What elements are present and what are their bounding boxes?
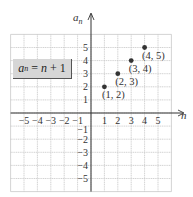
y-tick-label: 5 (83, 42, 88, 53)
x-tick-label: −5 (19, 115, 30, 126)
y-tick-label: 1 (83, 94, 88, 105)
y-tick-label: 2 (83, 81, 88, 92)
y-tick-label: 3 (83, 68, 88, 79)
x-tick-label: −4 (32, 115, 43, 126)
point-label: (2, 3) (115, 76, 138, 88)
x-tick-label: −2 (59, 115, 70, 126)
x-tick-label: 3 (129, 115, 134, 126)
equation-label-box: an = n + 1 (13, 59, 72, 79)
equation-equals: = (28, 61, 41, 76)
x-axis-label: n (181, 109, 187, 121)
x-tick-label: 1 (102, 115, 107, 126)
point-label: (4, 5) (142, 50, 165, 62)
y-axis-label: an (73, 11, 83, 26)
y-tick-label: −3 (77, 147, 88, 158)
x-tick-label: 5 (156, 115, 161, 126)
y-tick-label: −5 (77, 173, 88, 184)
equation-rhs-rest: + 1 (47, 61, 66, 76)
y-tick-label: −2 (77, 134, 88, 145)
y-tick-label: −1 (77, 124, 88, 135)
point-label: (1, 2) (102, 89, 125, 101)
coordinate-plane: −5−4−3−2−112345−5−4−3−2−112345 (1, 2)(2,… (0, 0, 193, 197)
x-tick-label: 4 (142, 115, 147, 126)
y-tick-label: −4 (77, 160, 88, 171)
data-points: (1, 2)(2, 3)(3, 4)(4, 5) (102, 45, 165, 101)
y-tick-label: 4 (83, 55, 88, 66)
x-tick-label: 2 (115, 115, 120, 126)
x-tick-label: −3 (45, 115, 56, 126)
point-label: (3, 4) (129, 63, 152, 75)
